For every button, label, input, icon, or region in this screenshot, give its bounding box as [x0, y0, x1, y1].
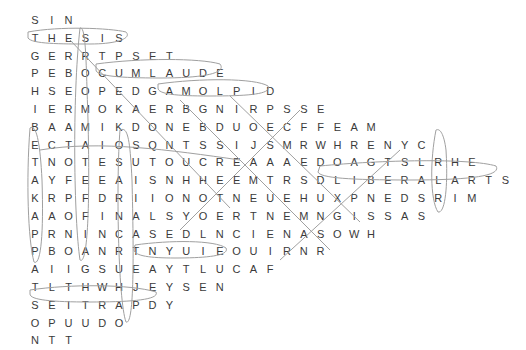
grid-letter: C: [413, 138, 429, 152]
grid-letter: O: [329, 227, 345, 241]
grid-letter: A: [44, 209, 60, 223]
grid-letter: L: [329, 173, 345, 187]
grid-letter: I: [27, 102, 43, 116]
grid-letter: R: [61, 49, 77, 63]
grid-letter: E: [44, 49, 60, 63]
grid-letter: A: [111, 173, 127, 187]
grid-letter: T: [262, 173, 278, 187]
grid-letter: T: [245, 209, 261, 223]
grid-letter: Y: [161, 298, 177, 312]
grid-letter: E: [380, 191, 396, 205]
grid-letter: E: [313, 102, 329, 116]
grid-letter: T: [44, 333, 60, 347]
grid-letter: T: [27, 155, 43, 169]
grid-letter: E: [145, 280, 161, 294]
grid-letter: I: [94, 209, 110, 223]
grid-letter: R: [161, 102, 177, 116]
grid-letter: F: [77, 191, 93, 205]
grid-letter: L: [44, 280, 60, 294]
grid-letter: T: [77, 298, 93, 312]
grid-letter: Y: [161, 280, 177, 294]
grid-letter: O: [61, 244, 77, 258]
grid-letter: F: [262, 262, 278, 276]
grid-letter: U: [178, 66, 194, 80]
grid-letter: E: [61, 84, 77, 98]
grid-letter: E: [44, 298, 60, 312]
grid-letter: N: [212, 227, 228, 241]
grid-letter: T: [145, 155, 161, 169]
grid-letter: A: [262, 155, 278, 169]
grid-letter: O: [94, 102, 110, 116]
grid-letter: C: [44, 138, 60, 152]
grid-letter: O: [145, 120, 161, 134]
grid-letter: N: [161, 138, 177, 152]
grid-letter: R: [111, 244, 127, 258]
grid-letter: S: [128, 49, 144, 63]
grid-letter: T: [77, 155, 93, 169]
grid-letter: S: [161, 209, 177, 223]
grid-letter: I: [94, 120, 110, 134]
grid-letter: A: [346, 120, 362, 134]
grid-letter: A: [245, 262, 261, 276]
grid-letter: H: [447, 155, 463, 169]
grid-letter: N: [212, 102, 228, 116]
grid-letter: I: [128, 173, 144, 187]
grid-letter: E: [212, 173, 228, 187]
grid-letter: C: [111, 227, 127, 241]
grid-letter: A: [111, 298, 127, 312]
grid-letter: I: [145, 191, 161, 205]
grid-letter: B: [178, 102, 194, 116]
grid-letter: P: [44, 316, 60, 330]
grid-letter: M: [128, 66, 144, 80]
grid-letter: S: [94, 262, 110, 276]
grid-letter: E: [363, 138, 379, 152]
grid-letter: G: [27, 49, 43, 63]
grid-letter: S: [296, 102, 312, 116]
grid-letter: D: [128, 84, 144, 98]
grid-letter: H: [27, 84, 43, 98]
grid-letter: U: [212, 262, 228, 276]
grid-letter: U: [111, 262, 127, 276]
grid-letter: A: [128, 209, 144, 223]
grid-letter: N: [161, 120, 177, 134]
grid-letter: E: [279, 191, 295, 205]
grid-letter: D: [397, 191, 413, 205]
grid-letter: R: [346, 138, 362, 152]
grid-letter: A: [413, 173, 429, 187]
grid-letter: T: [380, 155, 396, 169]
grid-letter: D: [313, 155, 329, 169]
grid-letter: A: [296, 227, 312, 241]
grid-letter: E: [94, 155, 110, 169]
grid-letter: R: [313, 244, 329, 258]
grid-letter: S: [313, 227, 329, 241]
grid-letter: E: [178, 120, 194, 134]
grid-letter: Y: [44, 173, 60, 187]
grid-letter: D: [262, 84, 278, 98]
grid-letter: I: [195, 244, 211, 258]
grid-letter: M: [279, 138, 295, 152]
grid-letter: W: [313, 138, 329, 152]
grid-letter: H: [363, 227, 379, 241]
grid-letter: E: [161, 227, 177, 241]
grid-letter: T: [128, 244, 144, 258]
grid-letter: N: [313, 209, 329, 223]
grid-letter: O: [111, 316, 127, 330]
grid-letter: T: [94, 49, 110, 63]
grid-letter: E: [380, 173, 396, 187]
grid-letter: G: [77, 262, 93, 276]
grid-letter: E: [262, 227, 278, 241]
grid-letter: J: [128, 280, 144, 294]
grid-letter: O: [161, 155, 177, 169]
grid-letter: N: [44, 155, 60, 169]
grid-letter: E: [262, 120, 278, 134]
grid-letter: S: [111, 31, 127, 45]
grid-letter: T: [27, 31, 43, 45]
grid-letter: O: [77, 84, 93, 98]
grid-letter: I: [77, 227, 93, 241]
grid-letter: R: [430, 155, 446, 169]
grid-letter: I: [447, 191, 463, 205]
grid-letter: O: [195, 191, 211, 205]
grid-letter: D: [178, 227, 194, 241]
grid-letter: S: [111, 155, 127, 169]
grid-letter: B: [363, 173, 379, 187]
